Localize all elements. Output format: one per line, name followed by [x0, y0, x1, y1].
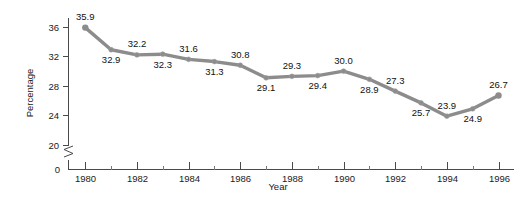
data-point-marker [315, 73, 320, 78]
y-axis-zero-label: 0 [55, 164, 60, 175]
x-tick-label: 1984 [179, 173, 200, 184]
data-point-marker [341, 69, 346, 74]
data-point-marker [238, 63, 243, 68]
data-point-marker [264, 75, 269, 80]
x-tick-labels: 198019821984198619881990199219941996 [75, 173, 510, 184]
data-point-marker [290, 74, 295, 79]
data-point-label: 35.9 [76, 11, 95, 22]
y-axis-title: Percentage [24, 69, 35, 118]
data-point-marker [470, 106, 475, 111]
x-tick-marks-major [86, 162, 500, 170]
x-tick-label: 1980 [75, 173, 96, 184]
x-axis: 198019821984198619881990199219941996 Yea… [69, 162, 515, 192]
x-tick-label: 1990 [334, 173, 355, 184]
data-point-marker [212, 59, 217, 64]
chart-canvas: 3632282420 0 Percentage 1980198219841986… [0, 0, 531, 201]
data-point-label: 25.7 [412, 107, 431, 118]
data-point-marker [419, 101, 424, 106]
y-tick-label: 28 [48, 81, 59, 92]
data-point-label: 31.6 [179, 43, 198, 54]
y-tick-label: 32 [48, 51, 59, 62]
x-tick-label: 1992 [385, 173, 406, 184]
data-point-label: 32.2 [128, 38, 147, 49]
data-point-label: 29.1 [257, 82, 276, 93]
data-point-label: 28.9 [360, 84, 379, 95]
data-point-label: 32.9 [102, 54, 121, 65]
x-tick-label: 1982 [127, 173, 148, 184]
y-tick-label: 36 [48, 22, 59, 33]
data-point-marker [160, 52, 165, 57]
data-point-marker [186, 57, 191, 62]
data-point-marker [393, 89, 398, 94]
axis-break-icon [64, 146, 73, 157]
y-axis: 3632282420 0 Percentage [24, 18, 73, 175]
data-point-label: 29.4 [308, 80, 327, 91]
data-point-label: 30.0 [334, 55, 353, 66]
data-point-label: 23.9 [438, 100, 457, 111]
data-point-labels: 35.932.932.232.331.631.330.829.129.329.4… [76, 11, 508, 124]
y-tick-label: 20 [48, 140, 59, 151]
data-point-marker [135, 53, 140, 58]
data-point-label: 29.3 [283, 60, 302, 71]
x-tick-label: 1986 [230, 173, 251, 184]
data-point-marker [495, 92, 501, 98]
line-chart: 3632282420 0 Percentage 1980198219841986… [0, 0, 531, 201]
data-point-marker [82, 24, 88, 30]
x-axis-title: Year [268, 181, 287, 192]
y-tick-label: 24 [48, 110, 59, 121]
series-line-path [85, 28, 498, 117]
data-point-marker [109, 47, 114, 52]
data-point-label: 26.7 [489, 79, 508, 90]
x-tick-label: 1994 [437, 173, 458, 184]
data-point-label: 27.3 [386, 75, 405, 86]
data-point-label: 32.3 [154, 59, 173, 70]
data-point-label: 24.9 [463, 113, 482, 124]
data-point-marker [367, 77, 372, 82]
data-point-label: 31.3 [205, 66, 224, 77]
y-tick-labels: 3632282420 [48, 22, 59, 151]
y-tick-marks [63, 28, 69, 146]
x-tick-label: 1996 [489, 173, 510, 184]
data-point-marker [444, 114, 449, 119]
data-point-label: 30.8 [231, 49, 250, 60]
